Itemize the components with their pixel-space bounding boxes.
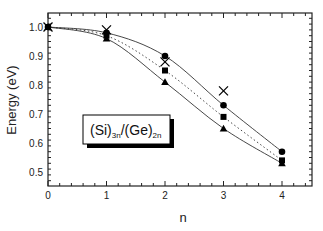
annotation-text: (Si)3n/(Ge)2n	[90, 122, 161, 140]
y-axis-title: Energy (eV)	[4, 65, 19, 134]
y-tick-label: 0.9	[29, 51, 43, 62]
plot-axes: 012340.50.60.70.80.91.0	[29, 13, 312, 201]
x-tick-label: 1	[104, 190, 110, 201]
y-tick-label: 0.8	[29, 80, 43, 91]
circle-marker	[279, 148, 286, 155]
x-tick-label: 4	[279, 190, 285, 201]
circle-marker	[162, 53, 169, 60]
triangle-marker	[161, 78, 169, 85]
x-axis-title: n	[179, 210, 186, 225]
y-tick-label: 0.7	[29, 109, 43, 120]
y-tick-label: 0.5	[29, 167, 43, 178]
x-tick-label: 0	[45, 190, 51, 201]
square-marker	[162, 68, 168, 74]
x-tick-label: 3	[221, 190, 227, 201]
plot-frame	[48, 13, 312, 186]
circle-marker	[220, 102, 227, 109]
y-tick-label: 0.6	[29, 138, 43, 149]
annotation-box: (Si)3n/(Ge)2n	[83, 115, 174, 148]
x-tick-label: 2	[162, 190, 168, 201]
y-tick-label: 1.0	[29, 22, 43, 33]
triangle-marker	[220, 125, 228, 132]
cross-marker	[219, 86, 228, 95]
energy-chart: 012340.50.60.70.80.91.0 (Si)3n/(Ge)2n n …	[0, 0, 323, 231]
square-marker	[221, 114, 227, 120]
